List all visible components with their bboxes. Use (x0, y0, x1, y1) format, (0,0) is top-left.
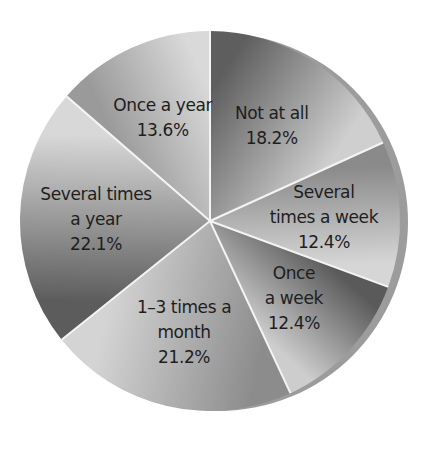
slice-label: Oncea week12.4% (265, 263, 324, 333)
pie-chart-svg: Not at all18.2%Severaltimes a week12.4%O… (0, 0, 438, 458)
pie-chart: Not at all18.2%Severaltimes a week12.4%O… (0, 0, 438, 458)
